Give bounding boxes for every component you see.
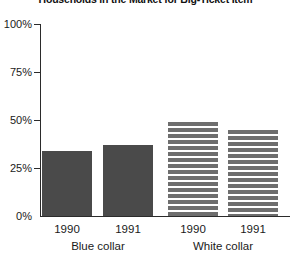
y-axis-tick-25	[34, 168, 41, 169]
x-axis-label-white-1991: 1991	[223, 223, 283, 235]
x-axis-label-blue-1991: 1991	[98, 223, 158, 235]
bar-blue-collar-1991	[103, 145, 153, 216]
y-axis-label-75: 75%	[0, 67, 32, 78]
chart-title: Households in the Market for Big-Ticket …	[0, 0, 291, 5]
y-axis-tick-50	[34, 120, 41, 121]
y-axis-tick-100	[34, 24, 41, 25]
x-axis-line	[40, 216, 290, 217]
bar-white-collar-1990	[168, 122, 218, 216]
x-axis-group-white-collar: White collar	[158, 240, 288, 252]
y-axis-label-0: 0%	[0, 211, 32, 222]
plot-area	[41, 24, 290, 216]
y-axis-label-50: 50%	[0, 115, 32, 126]
x-axis-group-blue-collar: Blue collar	[33, 240, 163, 252]
bar-white-collar-1991	[228, 130, 278, 216]
bar-blue-collar-1990	[42, 151, 92, 216]
x-axis-label-blue-1990: 1990	[37, 223, 97, 235]
bar-chart: Households in the Market for Big-Ticket …	[0, 0, 291, 258]
x-axis-label-white-1990: 1990	[163, 223, 223, 235]
y-axis-label-25: 25%	[0, 163, 32, 174]
y-axis-label-100: 100%	[0, 19, 32, 30]
y-axis-tick-75	[34, 72, 41, 73]
